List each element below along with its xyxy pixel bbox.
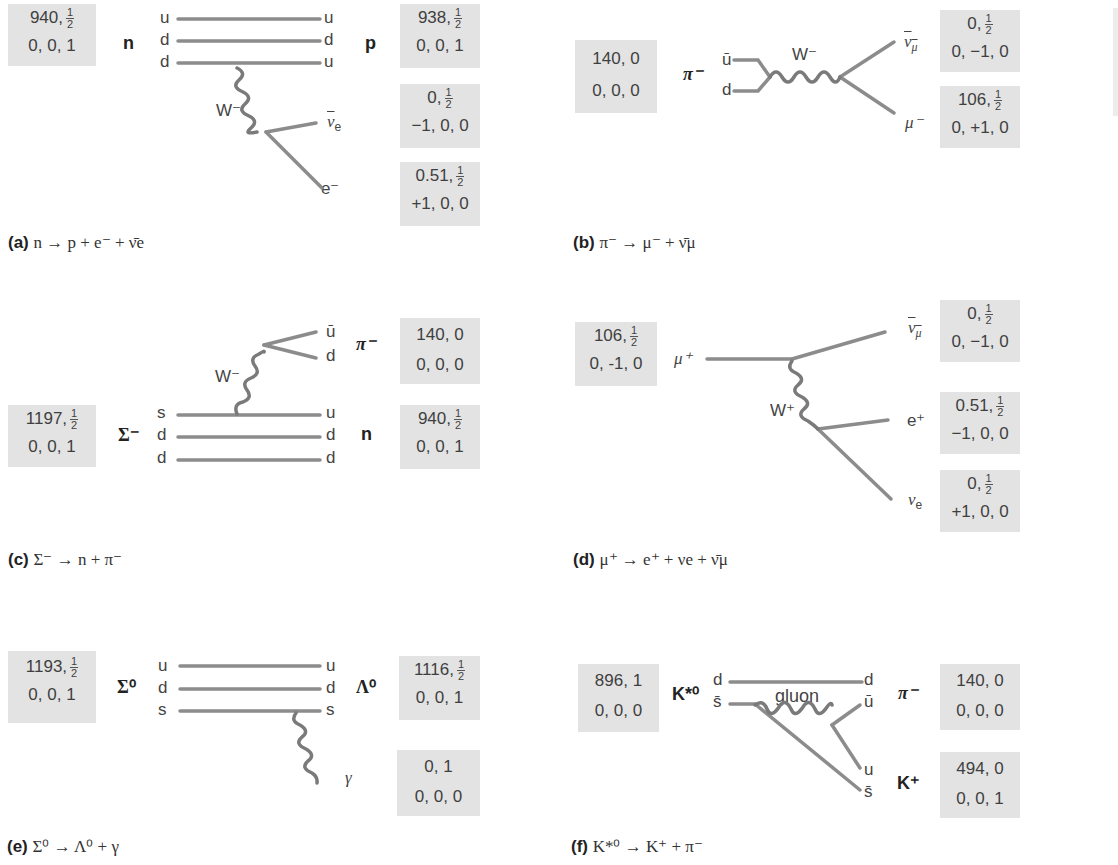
gluon-line [755,702,832,713]
w-plus-boson-line [790,361,818,429]
w-minus-boson-line [236,351,264,414]
photon-line [294,713,317,783]
w-minus-boson-line [236,68,257,133]
w-minus-boson-line [770,72,840,82]
feynman-lines [0,0,1118,865]
